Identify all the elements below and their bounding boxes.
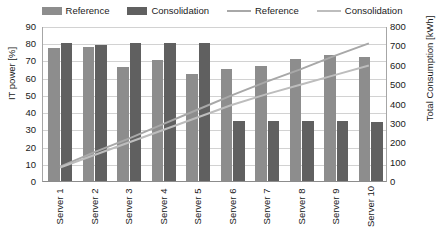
legend-swatch-reference-bar: [42, 7, 62, 15]
x-axis-label: Server 6: [226, 181, 237, 233]
y-axis-left-tick: 30: [8, 125, 36, 135]
legend-swatch-consolidation-bar: [127, 7, 147, 15]
line-series-layer: [43, 27, 386, 181]
y-axis-left-tick: 90: [8, 22, 36, 32]
plot-area: [42, 27, 387, 182]
x-axis-label: Server 10: [364, 181, 375, 233]
legend-swatch-reference-line: [227, 10, 251, 12]
x-axis-label: Server 5: [192, 181, 203, 233]
y-axis-left-tick: 60: [8, 74, 36, 84]
legend-label-reference-bar: Reference: [66, 6, 110, 16]
legend-item-reference-line: Reference: [227, 6, 299, 16]
y-axis-right-tick: 800: [390, 22, 420, 32]
y-axis-right-tick: 700: [390, 41, 420, 51]
y-axis-right-tick: 0: [390, 177, 420, 187]
y-axis-left-tick: 40: [8, 108, 36, 118]
x-axis-label: Server 4: [157, 181, 168, 233]
legend-item-consolidation-bar: Consolidation: [127, 6, 209, 16]
chart-legend: Reference Consolidation Reference Consol…: [0, 2, 444, 20]
y-axis-right-title: Total Consumption [kWh]: [424, 0, 435, 144]
y-axis-left-tick: 10: [8, 160, 36, 170]
y-axis-left-tick: 0: [8, 177, 36, 187]
x-axis-label: Server 7: [261, 181, 272, 233]
y-axis-right-tick: 500: [390, 80, 420, 90]
x-axis-label: Server 3: [123, 181, 134, 233]
y-axis-left-tick: 20: [8, 143, 36, 153]
legend-label-reference-line: Reference: [255, 6, 299, 16]
legend-item-reference-bar: Reference: [42, 6, 110, 16]
chart-container: Reference Consolidation Reference Consol…: [0, 0, 444, 242]
x-axis-label: Server 9: [330, 181, 341, 233]
line-series: [60, 66, 369, 168]
y-axis-right-tick: 600: [390, 61, 420, 71]
y-axis-right-tick: 400: [390, 100, 420, 110]
y-axis-right-tick: 100: [390, 158, 420, 168]
y-axis-right-tick: 300: [390, 119, 420, 129]
x-axis-label: Server 8: [295, 181, 306, 233]
y-axis-left-tick: 70: [8, 56, 36, 66]
x-axis-category-labels: Server 1Server 2Server 3Server 4Server 5…: [42, 183, 387, 241]
x-axis-label: Server 1: [54, 181, 65, 233]
y-axis-right-tick: 200: [390, 138, 420, 148]
legend-label-consolidation-bar: Consolidation: [151, 6, 209, 16]
x-axis-label: Server 2: [88, 181, 99, 233]
y-axis-left-tick: 50: [8, 91, 36, 101]
y-axis-left-tick: 80: [8, 39, 36, 49]
legend-swatch-consolidation-line: [317, 10, 341, 12]
y-axis-left-ticks: 0102030405060708090: [8, 0, 36, 242]
line-series: [60, 43, 369, 166]
y-axis-right-ticks: 0100200300400500600700800: [390, 0, 420, 242]
